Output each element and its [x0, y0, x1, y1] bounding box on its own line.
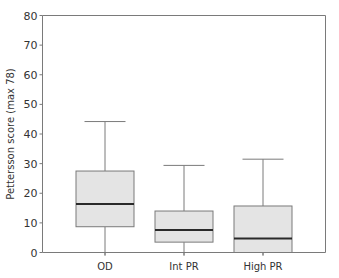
x-tick-label: High PR: [243, 261, 282, 272]
box-int-pr: [155, 165, 213, 255]
x-tick-label: OD: [97, 261, 113, 272]
iqr-box: [234, 206, 292, 253]
y-axis-title: Pettersson score (max 78): [5, 68, 16, 200]
y-tick-label: 80: [24, 10, 38, 23]
y-tick-label: 20: [24, 187, 38, 200]
box-high-pr: [234, 159, 292, 255]
y-tick-label: 40: [24, 128, 38, 141]
y-tick-label: 30: [24, 158, 38, 171]
y-tick-label: 0: [31, 247, 38, 260]
box-od: [76, 122, 134, 256]
y-tick-label: 50: [24, 98, 38, 111]
y-axis-ticks: 01020304050607080: [24, 10, 43, 260]
boxes: [76, 122, 292, 256]
x-axis-labels: ODInt PRHigh PR: [97, 253, 282, 272]
iqr-box: [155, 211, 213, 242]
iqr-box: [76, 171, 134, 227]
y-tick-label: 60: [24, 69, 38, 82]
y-tick-label: 70: [24, 39, 38, 52]
y-tick-label: 10: [24, 217, 38, 230]
x-tick-label: Int PR: [169, 261, 198, 272]
boxplot-chart: 01020304050607080 ODInt PRHigh PR Petter…: [0, 0, 339, 278]
